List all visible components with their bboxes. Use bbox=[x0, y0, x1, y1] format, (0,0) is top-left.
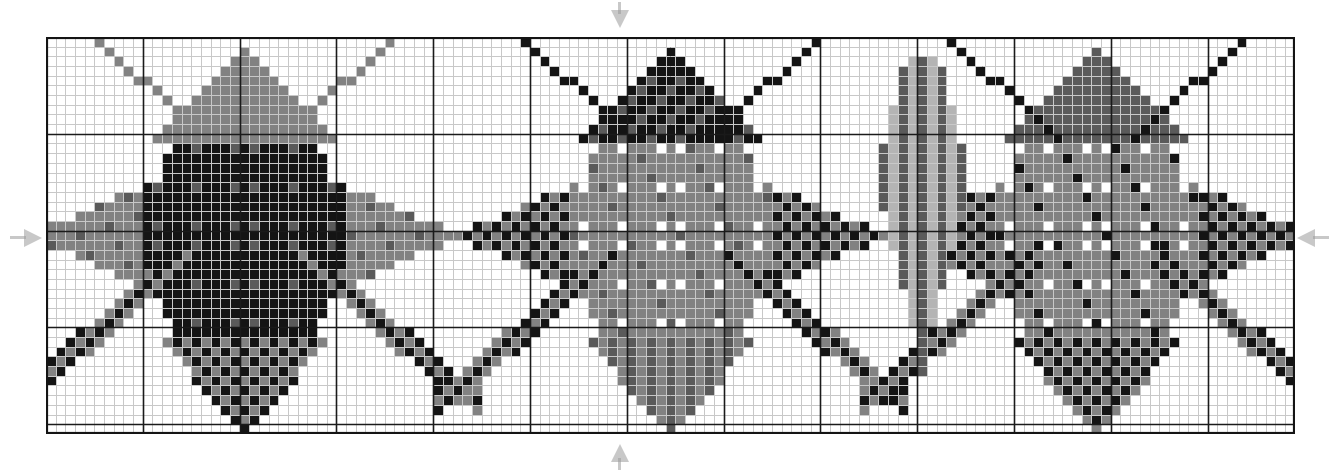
center-marker-left-arrow-icon bbox=[24, 229, 42, 247]
pattern-grid bbox=[46, 37, 1295, 434]
pattern-grid-canvas bbox=[46, 37, 1295, 434]
center-marker-top-arrow-icon bbox=[611, 10, 629, 28]
center-marker-right-arrow-icon bbox=[1297, 229, 1315, 247]
center-marker-right-stem bbox=[1313, 236, 1329, 239]
cross-stitch-pattern-chart bbox=[0, 0, 1339, 472]
center-marker-bottom-arrow-icon bbox=[611, 444, 629, 462]
